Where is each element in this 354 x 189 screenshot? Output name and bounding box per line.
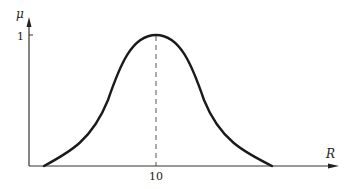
x-tick-label: 10	[149, 170, 163, 183]
membership-function-diagram: μ 1 R 10	[0, 0, 354, 189]
y-axis-arrow-icon	[27, 17, 32, 27]
x-axis-arrow-icon	[328, 164, 339, 169]
x-axis-label: R	[325, 147, 335, 161]
membership-curve	[44, 35, 272, 166]
y-axis-label: μ	[16, 7, 24, 21]
y-tick-label: 1	[17, 30, 24, 43]
